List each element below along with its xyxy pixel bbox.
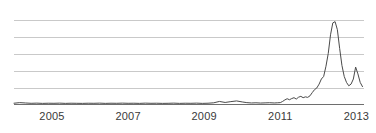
- x-tick-label-2009: 2009: [192, 110, 217, 122]
- chart-container: 20052007200920112013: [0, 0, 376, 133]
- x-tick-label-2007: 2007: [115, 110, 140, 122]
- line-chart: 20052007200920112013: [0, 0, 376, 133]
- x-tick-label-2005: 2005: [39, 110, 64, 122]
- x-tick-label-2013: 2013: [344, 110, 369, 122]
- x-tick-label-2011: 2011: [268, 110, 292, 122]
